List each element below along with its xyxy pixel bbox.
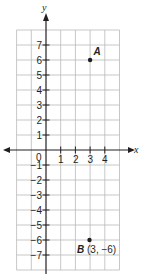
y-tick-label: 6 xyxy=(36,55,42,66)
y-tick-label: 7 xyxy=(36,40,42,51)
y-tick-label: 4 xyxy=(36,85,42,96)
y-tick-label: 2 xyxy=(36,115,42,126)
y-axis-label: y xyxy=(41,2,47,13)
x-tick-label: 3 xyxy=(88,154,94,165)
x-axis xyxy=(3,147,135,154)
y-tick-label: −3 xyxy=(31,190,43,201)
y-axis-up-arrow-icon xyxy=(43,13,49,21)
y-tick-label: −4 xyxy=(31,205,43,216)
y-tick-label: 5 xyxy=(36,70,42,81)
y-axis xyxy=(43,13,50,274)
y-tick-label: −5 xyxy=(31,220,43,231)
x-tick-label: 2 xyxy=(73,154,79,165)
y-tick-label: −7 xyxy=(31,250,43,261)
x-tick-label: 1 xyxy=(58,154,64,165)
point-b-coordinates: (3, −6) xyxy=(87,244,116,255)
point-b-label: B xyxy=(77,244,84,255)
point-b-dot-icon xyxy=(87,238,91,242)
y-tick-label: 1 xyxy=(36,130,42,141)
y-tick-label: −6 xyxy=(31,235,43,246)
y-tick-label: −2 xyxy=(31,175,43,186)
y-tick-label: −1 xyxy=(31,160,43,171)
x-axis-left-arrow-icon xyxy=(3,147,10,153)
point-a-dot-icon xyxy=(88,58,92,62)
x-tick-labels: 0 1 2 3 4 xyxy=(36,152,108,165)
x-tick-label: 4 xyxy=(102,154,108,165)
x-axis-label: x xyxy=(133,144,139,155)
point-a-label: A xyxy=(93,46,101,57)
coordinate-plane: y x 0 1 2 3 4 7 6 5 4 3 2 1 −1 −2 −3 −4 … xyxy=(0,0,141,274)
y-tick-label: 3 xyxy=(36,100,42,111)
